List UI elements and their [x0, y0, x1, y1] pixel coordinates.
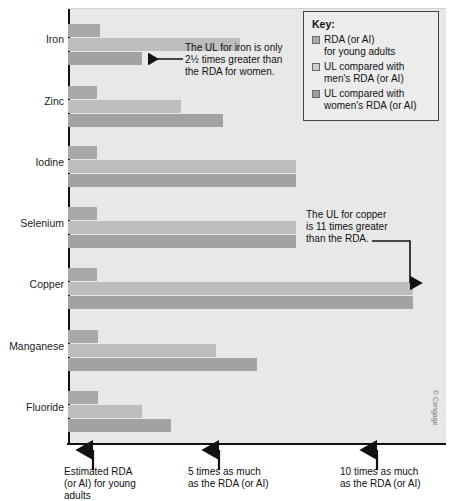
- y-label-manganese: Manganese: [0, 340, 64, 352]
- x-axis-line: [67, 443, 446, 445]
- plot-top-border: [68, 8, 446, 9]
- legend-label-ul-women-line2: women's RDA (or AI): [324, 100, 417, 111]
- annotation-iron-line1: The UL for iron is only: [185, 42, 282, 53]
- bar-copper-ul-men: [68, 282, 413, 295]
- annotation-iron: The UL for iron is only 2½ times greater…: [185, 42, 305, 78]
- legend-swatch-rda-icon: [312, 36, 320, 44]
- bar-fluoride-rda: [68, 391, 98, 404]
- annotation-iron-line3: the RDA for women.: [185, 66, 274, 77]
- legend-label-rda-line2: for young adults: [324, 46, 395, 57]
- legend-label-ul-men: UL compared with men's RDA (or AI): [324, 61, 404, 84]
- bar-iodine-ul-men: [68, 160, 296, 173]
- bar-zinc-ul-women: [68, 114, 223, 127]
- annotation-iron-line2: 2½ times greater than: [185, 54, 282, 65]
- bar-iron-ul-women: [68, 52, 142, 65]
- bar-manganese-ul-women: [68, 358, 257, 371]
- x-tick-label-rda-line1: Estimated RDA: [64, 466, 132, 477]
- legend-label-rda-line1: RDA (or AI): [324, 34, 375, 45]
- legend-label-rda: RDA (or AI) for young adults: [324, 34, 395, 57]
- annotation-copper-line3: than the RDA.: [306, 233, 369, 244]
- annotation-copper-line1: The UL for copper: [306, 209, 386, 220]
- annotation-copper-line2: is 11 times greater: [306, 221, 388, 232]
- copyright-credit: © Cengage: [432, 390, 439, 426]
- legend-label-ul-men-line2: men's RDA (or AI): [324, 73, 404, 84]
- bar-iodine-rda: [68, 146, 97, 159]
- chart-figure: Iron Zinc Iodine Selenium Copper Mangane…: [0, 0, 454, 501]
- legend-item-rda: RDA (or AI) for young adults: [312, 34, 431, 57]
- x-tick-label-10x-line1: 10 times as much: [340, 466, 418, 477]
- x-tick-label-rda-line2: (or AI) for young: [64, 478, 136, 489]
- legend-item-ul-men: UL compared with men's RDA (or AI): [312, 61, 431, 84]
- bar-zinc-ul-men: [68, 100, 181, 113]
- legend-title: Key:: [312, 18, 431, 30]
- x-tick-label-10x-line2: as the RDA (or AI): [340, 478, 421, 489]
- x-tick-label-10x: 10 times as much as the RDA (or AI): [340, 466, 440, 490]
- x-tick-label-rda: Estimated RDA (or AI) for young adults: [64, 466, 144, 501]
- bar-fluoride-ul-men: [68, 405, 142, 418]
- legend-label-ul-men-line1: UL compared with: [324, 61, 404, 72]
- legend-swatch-ul-women-icon: [312, 90, 320, 98]
- x-tick-label-5x-line1: 5 times as much: [188, 466, 261, 477]
- bar-manganese-rda: [68, 330, 98, 343]
- y-label-selenium: Selenium: [0, 217, 64, 229]
- bar-copper-ul-women: [68, 296, 413, 309]
- y-label-iron: Iron: [0, 33, 64, 45]
- bar-fluoride-ul-women: [68, 419, 171, 432]
- legend-swatch-ul-men-icon: [312, 63, 320, 71]
- bar-selenium-rda: [68, 207, 97, 220]
- y-label-zinc: Zinc: [0, 95, 64, 107]
- x-tick-label-5x-line2: as the RDA (or AI): [188, 478, 269, 489]
- legend-label-ul-women-line1: UL compared with: [324, 88, 404, 99]
- legend-item-ul-women: UL compared with women's RDA (or AI): [312, 88, 431, 111]
- x-tick-label-rda-line3: adults: [64, 490, 91, 501]
- bar-manganese-ul-men: [68, 344, 216, 357]
- y-label-fluoride: Fluoride: [0, 401, 64, 413]
- legend-key-box: Key: RDA (or AI) for young adults UL com…: [303, 11, 439, 121]
- bar-selenium-ul-women: [68, 235, 296, 248]
- bar-iodine-ul-women: [68, 174, 296, 187]
- y-label-iodine: Iodine: [0, 156, 64, 168]
- x-tick-label-5x: 5 times as much as the RDA (or AI): [188, 466, 283, 490]
- legend-label-ul-women: UL compared with women's RDA (or AI): [324, 88, 417, 111]
- bar-iron-rda: [68, 24, 100, 37]
- bar-copper-rda: [68, 268, 97, 281]
- y-label-copper: Copper: [0, 278, 64, 290]
- bar-zinc-rda: [68, 86, 97, 99]
- bar-selenium-ul-men: [68, 221, 296, 234]
- annotation-copper: The UL for copper is 11 times greater th…: [306, 209, 416, 245]
